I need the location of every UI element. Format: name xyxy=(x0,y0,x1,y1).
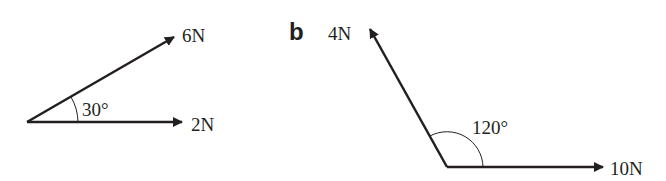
part-label-b: b xyxy=(289,18,304,45)
angle-label-120: 120° xyxy=(472,117,508,138)
vector-4n-arrow xyxy=(370,29,447,167)
angle-label-30: 30° xyxy=(82,99,109,120)
label-2n: 2N xyxy=(191,114,215,135)
diagram-b: b 4N 120° 10N xyxy=(289,18,643,179)
force-diagrams: 6N 2N 30° b 4N 120° 10N xyxy=(0,0,666,181)
label-6n: 6N xyxy=(182,25,206,46)
angle-arc-30 xyxy=(71,97,78,122)
label-4n: 4N xyxy=(328,23,352,44)
diagram-a: 6N 2N 30° xyxy=(27,25,215,135)
label-10n: 10N xyxy=(610,158,643,179)
